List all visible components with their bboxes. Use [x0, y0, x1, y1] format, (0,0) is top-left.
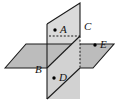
point-dot-d: [52, 76, 55, 79]
point-label-e: E: [100, 39, 107, 50]
point-dot-a: [53, 28, 56, 31]
point-label-a: A: [60, 24, 67, 35]
point-label-b: B: [35, 64, 42, 75]
point-label-d: D: [59, 72, 67, 83]
point-label-c: C: [84, 21, 91, 32]
point-dot-e: [93, 43, 96, 46]
geometry-figure: A B C D E: [0, 0, 119, 104]
geometry-canvas: [0, 0, 119, 104]
